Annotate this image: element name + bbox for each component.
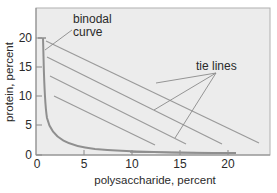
binodal-tail [130, 152, 222, 153]
y-tick-10: 10 [19, 89, 33, 103]
y-tick-15: 15 [19, 60, 33, 74]
y-tick-20: 20 [19, 31, 33, 45]
y-tick-5: 5 [25, 118, 32, 132]
tie-lines-label: tie lines [196, 59, 237, 73]
x-tick-10: 10 [125, 157, 139, 171]
x-tick-0: 0 [34, 157, 41, 171]
binodal-label-line2: curve [73, 25, 103, 39]
phase-diagram: 0 5 10 15 20 0 5 10 15 20 polysaccharide… [0, 0, 277, 193]
x-tick-15: 15 [173, 157, 187, 171]
x-axis-label: polysaccharide, percent [94, 174, 216, 186]
binodal-label-line1: binodal [73, 12, 112, 26]
y-tick-0: 0 [25, 148, 32, 162]
plot-area [36, 8, 270, 155]
x-tick-5: 5 [81, 157, 88, 171]
y-axis-label: protein, percent [3, 41, 15, 122]
y-tick-labels: 0 5 10 15 20 [19, 31, 33, 162]
x-tick-labels: 0 5 10 15 20 [34, 157, 235, 171]
x-tick-20: 20 [221, 157, 235, 171]
